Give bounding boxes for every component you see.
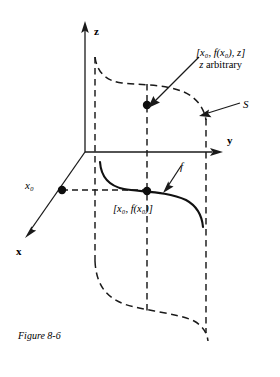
point-3d-coordinates-text: [x₀, f(x₀), z] (196, 47, 245, 59)
z-arbitrary-word: arbitrary (203, 59, 242, 70)
surface-label-s: S (243, 98, 249, 111)
point-marker-x0 (58, 186, 66, 194)
surface-rulings-group (95, 57, 206, 333)
figure-container: z y x x₀ S f [x₀, f(x₀), z] z arbitrary … (0, 0, 280, 377)
point-marker-2d (143, 187, 151, 195)
figure-caption: Figure 8-6 (18, 330, 61, 342)
callout-arrow-surface-s (199, 103, 240, 117)
point-2d-coordinates-label: [x₀, f(x₀)] (113, 203, 153, 215)
callout-arrow-function-f (163, 166, 181, 193)
z-arbitrary-text: z arbitrary (196, 59, 245, 71)
y-axis-label: y (227, 134, 233, 147)
callout-arrow-point-3d (148, 57, 199, 108)
x-axis-arrowhead (25, 226, 36, 238)
function-label-f: f (180, 160, 183, 173)
point-3d-callout-label: [x₀, f(x₀), z] z arbitrary (196, 47, 245, 71)
surface-bottom-edge-curve (95, 261, 208, 341)
x0-point-label: x₀ (25, 179, 34, 192)
x-axis-label: x (16, 245, 22, 258)
z-axis-label: z (94, 25, 99, 38)
function-curve-f (100, 162, 203, 227)
